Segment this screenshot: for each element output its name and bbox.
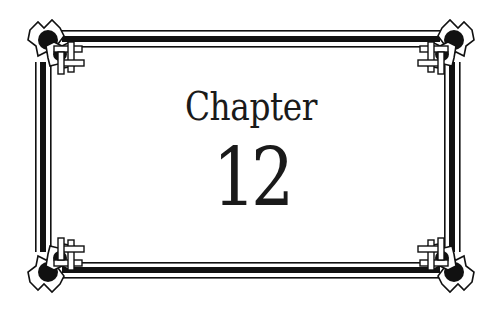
chapter-heading: Chapter — [45, 83, 457, 129]
border-bottom — [62, 262, 440, 279]
chapter-number: 12 — [38, 138, 465, 218]
corner-knot-top-right-icon — [418, 20, 474, 74]
border-top — [62, 30, 440, 48]
corner-knot-bottom-right-icon — [418, 238, 474, 292]
